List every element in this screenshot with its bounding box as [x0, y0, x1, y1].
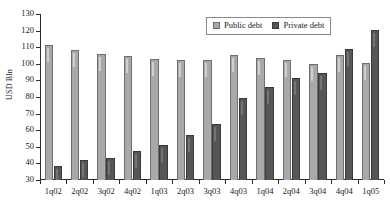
y-tick-mark — [36, 97, 40, 98]
bar-public-debt-4q03 — [230, 55, 238, 180]
bar-group — [97, 14, 114, 180]
legend-label: Private debt — [283, 20, 324, 31]
legend-swatch-icon — [272, 22, 279, 29]
x-tick-mark — [305, 180, 306, 184]
bar-highlight — [161, 148, 163, 162]
bar-highlight — [205, 63, 207, 77]
x-axis-label-2q03: 2q03 — [172, 186, 198, 196]
bar-public-debt-3q02 — [97, 54, 105, 180]
x-axis-label-4q04: 4q04 — [331, 186, 357, 196]
x-axis-label-3q04: 3q04 — [305, 186, 331, 196]
x-axis-label-4q03: 4q03 — [225, 186, 251, 196]
bar-public-debt-2q04 — [283, 60, 291, 180]
bar-group — [71, 14, 88, 180]
bar-private-debt-2q02 — [80, 160, 88, 180]
y-tick-mark — [36, 31, 40, 32]
bar-highlight — [294, 81, 296, 95]
y-tick-label: 60 — [26, 124, 35, 135]
y-tick-label: 40 — [26, 157, 35, 168]
x-tick-mark — [384, 180, 385, 184]
bar-highlight — [364, 66, 366, 80]
bar-highlight — [338, 58, 340, 72]
bar-group — [283, 14, 300, 180]
x-axis-label-1q05: 1q05 — [358, 186, 384, 196]
chart-legend: Public debtPrivate debt — [206, 17, 331, 35]
y-tick-label: 120 — [21, 25, 34, 36]
bar-public-debt-1q03 — [150, 59, 158, 180]
bar-highlight — [347, 52, 349, 66]
plot-area: 30405060708090100110120130 — [40, 14, 384, 180]
x-tick-mark — [278, 180, 279, 184]
bar-public-debt-2q03 — [177, 60, 185, 180]
bar-group — [230, 14, 247, 180]
bar-private-debt-4q04 — [345, 49, 353, 180]
legend-swatch-icon — [213, 22, 220, 29]
bar-group — [177, 14, 194, 180]
y-tick-mark — [36, 163, 40, 164]
x-tick-mark — [172, 180, 173, 184]
y-axis-line — [40, 14, 41, 180]
bar-private-debt-4q02 — [133, 151, 141, 180]
x-axis-label-3q03: 3q03 — [199, 186, 225, 196]
x-tick-mark — [40, 180, 41, 184]
bar-group — [256, 14, 273, 180]
x-tick-mark — [331, 180, 332, 184]
y-tick-label: 70 — [26, 108, 35, 119]
bar-highlight — [152, 62, 154, 76]
bar-public-debt-2q02 — [71, 50, 79, 180]
bar-private-debt-1q04 — [265, 87, 273, 180]
bar-public-debt-3q03 — [203, 60, 211, 180]
bar-highlight — [232, 58, 234, 72]
x-axis-label-2q02: 2q02 — [66, 186, 92, 196]
y-tick-mark — [36, 114, 40, 115]
x-axis-label-3q02: 3q02 — [93, 186, 119, 196]
x-axis-label-1q03: 1q03 — [146, 186, 172, 196]
legend-entry-public-debt[interactable]: Public debt — [213, 20, 262, 31]
bar-highlight — [258, 61, 260, 75]
x-axis-label-1q04: 1q04 — [252, 186, 278, 196]
bar-group — [45, 14, 62, 180]
bar-highlight — [56, 169, 58, 183]
x-tick-mark — [199, 180, 200, 184]
bar-highlight — [108, 161, 110, 175]
bar-private-debt-2q03 — [186, 135, 194, 180]
y-tick-label: 130 — [21, 8, 34, 19]
legend-entry-private-debt[interactable]: Private debt — [272, 20, 324, 31]
bar-private-debt-1q05 — [371, 30, 379, 180]
bar-highlight — [311, 67, 313, 81]
y-tick-label: 100 — [21, 58, 34, 69]
bar-chart: USD Bln 30405060708090100110120130 1q022… — [0, 0, 390, 215]
bar-highlight — [285, 63, 287, 77]
bar-public-debt-1q02 — [45, 45, 53, 180]
bar-highlight — [241, 101, 243, 115]
y-tick-label: 30 — [26, 174, 35, 185]
x-tick-mark — [66, 180, 67, 184]
x-tick-mark — [225, 180, 226, 184]
y-tick-mark — [36, 147, 40, 148]
bar-public-debt-4q04 — [336, 55, 344, 180]
bar-private-debt-3q02 — [106, 158, 114, 180]
x-axis-label-2q04: 2q04 — [278, 186, 304, 196]
x-axis-label-4q02: 4q02 — [119, 186, 145, 196]
bar-public-debt-4q02 — [124, 56, 132, 181]
x-tick-mark — [358, 180, 359, 184]
bar-highlight — [135, 154, 137, 168]
y-tick-mark — [36, 80, 40, 81]
bar-private-debt-1q02 — [54, 166, 62, 180]
y-tick-mark — [36, 14, 40, 15]
bar-private-debt-1q03 — [159, 145, 167, 180]
bar-highlight — [47, 48, 49, 62]
x-axis-label-1q02: 1q02 — [40, 186, 66, 196]
bar-highlight — [126, 59, 128, 73]
y-tick-mark — [36, 64, 40, 65]
bar-group — [362, 14, 379, 180]
bar-private-debt-3q03 — [212, 124, 220, 180]
bar-highlight — [267, 90, 269, 104]
y-tick-label: 110 — [22, 41, 34, 52]
y-tick-label: 90 — [26, 74, 35, 85]
bar-private-debt-4q03 — [239, 98, 247, 180]
bar-group — [203, 14, 220, 180]
y-tick-mark — [36, 130, 40, 131]
y-tick-mark — [36, 47, 40, 48]
bar-highlight — [320, 76, 322, 90]
